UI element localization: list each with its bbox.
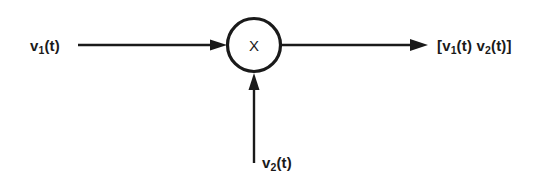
input2-label: v2(t): [262, 155, 292, 170]
diagram-canvas: X v1(t) v2(t) [v1(t) v2(t)]: [0, 0, 553, 183]
output-arrowhead: [410, 39, 428, 51]
input1-label: v1(t): [30, 38, 60, 53]
input2-arrowhead: [249, 73, 260, 90]
output-label: [v1(t) v2(t)]: [437, 38, 512, 53]
input1-subscript: 1: [39, 44, 45, 56]
output-close-bracket: ]: [507, 37, 512, 54]
output-term2-base: v: [477, 37, 486, 54]
input2-subscript: 2: [271, 161, 277, 173]
output-term2-suffix: (t): [491, 37, 507, 54]
multiplier-operator-label: X: [227, 17, 281, 73]
input1-base: v: [30, 37, 39, 54]
input2-suffix: (t): [276, 154, 292, 171]
input1-suffix: (t): [44, 37, 60, 54]
input2-base: v: [262, 154, 271, 171]
output-term1-subscript: 1: [451, 44, 457, 56]
output-term1-suffix: (t): [457, 37, 473, 54]
input1-arrowhead: [210, 40, 227, 51]
operator-glyph: X: [249, 38, 259, 53]
output-term1-base: v: [442, 37, 451, 54]
output-term2-subscript: 2: [485, 44, 491, 56]
